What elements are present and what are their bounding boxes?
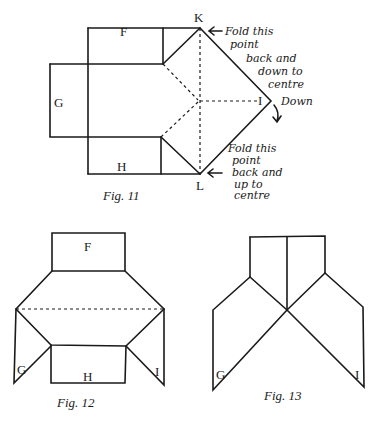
fig11-g-flap [50,64,161,137]
fig11-k-note-4: down to [258,65,303,78]
fig11-fold-upper [163,64,198,100]
fig11-label-g: G [54,95,63,110]
fig11-label-h: H [117,159,126,174]
fig11-label-k: K [194,10,204,25]
fig12-label-f: F [84,239,91,254]
fig11-k-note-1: Fold this [224,25,274,38]
figure-11: F G H I K L Fold this point back and dow… [50,10,313,203]
fig12-label-h: H [83,369,92,384]
fig11-caption: Fig. 11 [102,188,140,203]
arrow-l-icon [208,169,222,177]
figure-12: F G H I Fig. 12 [14,233,164,410]
fig13-flap-i [287,273,364,387]
fig13-label-g: G [216,367,225,382]
fig11-fold-lower [161,102,198,137]
fig12-caption: Fig. 12 [56,395,95,410]
fig11-label-l: L [196,178,204,193]
arrow-k-icon [209,27,222,35]
fig11-l-note-5: centre [234,189,270,202]
fig13-label-i: I [355,367,359,382]
fig11-bottom-diagonal [161,137,200,174]
fig11-label-i: I [258,93,262,108]
arrow-down-curved-icon [273,105,281,122]
fig11-label-f: F [120,24,127,39]
fig12-label-g: G [17,362,26,377]
fig11-i-note: Down [280,95,313,108]
fig11-k-note-2: point [230,38,259,51]
fig11-k-note-3: back and [246,52,297,65]
fig13-caption: Fig. 13 [263,388,302,403]
fig11-top-diagonal [163,28,200,64]
fig11-k-note-5: centre [268,78,304,91]
folding-diagram: F G H I K L Fold this point back and dow… [0,0,381,428]
fig12-label-i: I [155,364,159,379]
figure-13: G I Fig. 13 [213,236,364,403]
